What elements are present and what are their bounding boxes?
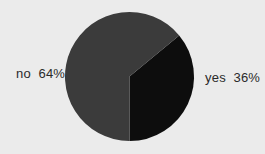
slice-label-no: no 64% [16,66,65,81]
slice-label-yes: yes 36% [205,70,260,85]
